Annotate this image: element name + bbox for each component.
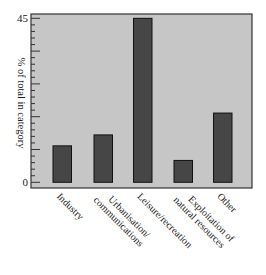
bar-other [214, 113, 233, 182]
y-axis-label: % of total in category [16, 58, 27, 150]
y-tick-label: 0 [23, 176, 29, 188]
category-label: Other [215, 191, 239, 215]
y-tick-label: 45 [17, 12, 29, 24]
bar-leisure-recreation [134, 18, 153, 182]
bar-exploitation-of-natural-resources [174, 160, 193, 182]
svg-text:Industry: Industry [55, 191, 86, 222]
bar-industry [53, 146, 72, 182]
bar-chart: 045 IndustryUrbanisation/communicationsL… [0, 0, 266, 275]
svg-text:Other: Other [215, 191, 239, 215]
bar-urbanisation-communications [94, 135, 113, 182]
x-axis-category-labels: IndustryUrbanisation/communicationsLeisu… [55, 186, 240, 252]
category-label: Industry [55, 191, 86, 222]
